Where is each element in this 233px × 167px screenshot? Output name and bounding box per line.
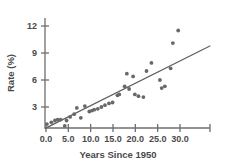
data-point bbox=[133, 93, 137, 97]
data-point bbox=[92, 108, 96, 112]
data-point bbox=[125, 72, 129, 76]
data-point bbox=[99, 105, 103, 109]
data-point bbox=[163, 84, 167, 88]
data-point bbox=[79, 116, 83, 120]
data-point bbox=[117, 93, 121, 97]
data-point bbox=[72, 112, 76, 116]
data-point bbox=[65, 119, 69, 123]
chart-canvas: 36912 0.05.010.015.020.025.030.0 Years S… bbox=[0, 0, 233, 167]
x-tick-label: 0.0 bbox=[40, 134, 53, 144]
x-tick-label: 20.0 bbox=[127, 134, 145, 144]
data-point bbox=[83, 104, 87, 108]
x-tick-label: 10.0 bbox=[82, 134, 100, 144]
data-point bbox=[96, 107, 100, 111]
data-point bbox=[45, 122, 49, 126]
x-axis-title: Years Since 1950 bbox=[79, 149, 156, 160]
data-point bbox=[176, 29, 180, 33]
data-point bbox=[123, 84, 127, 88]
data-point bbox=[137, 94, 141, 98]
data-point bbox=[131, 75, 135, 79]
data-point bbox=[150, 61, 154, 65]
scatter-chart: 36912 0.05.010.015.020.025.030.0 Years S… bbox=[0, 0, 233, 167]
data-point bbox=[127, 87, 131, 91]
y-axis-group: 36912 bbox=[27, 18, 49, 128]
x-tick-label: 30.0 bbox=[171, 134, 189, 144]
data-point bbox=[63, 124, 67, 128]
data-point bbox=[169, 66, 173, 70]
data-point bbox=[75, 106, 79, 110]
data-point bbox=[141, 95, 145, 99]
data-point bbox=[103, 103, 107, 107]
y-tick-labels: 36912 bbox=[27, 21, 37, 112]
x-tick-label: 15.0 bbox=[104, 134, 122, 144]
y-tick-label: 6 bbox=[32, 75, 37, 85]
y-tick-label: 9 bbox=[32, 48, 37, 58]
data-point bbox=[171, 41, 175, 45]
x-tick-label: 5.0 bbox=[62, 134, 75, 144]
x-tick-labels: 0.05.010.015.020.025.030.0 bbox=[40, 134, 189, 144]
y-tick-label: 3 bbox=[32, 102, 37, 112]
y-tick-label: 12 bbox=[27, 21, 37, 31]
data-point bbox=[107, 102, 111, 106]
data-point bbox=[145, 69, 149, 73]
data-point bbox=[68, 115, 72, 119]
data-point bbox=[111, 101, 115, 105]
data-point bbox=[49, 120, 53, 124]
data-point-group bbox=[45, 29, 180, 128]
y-axis-title: Rate (%) bbox=[5, 54, 16, 92]
data-point bbox=[59, 118, 63, 122]
x-tick-label: 25.0 bbox=[149, 134, 167, 144]
data-point bbox=[158, 78, 162, 82]
